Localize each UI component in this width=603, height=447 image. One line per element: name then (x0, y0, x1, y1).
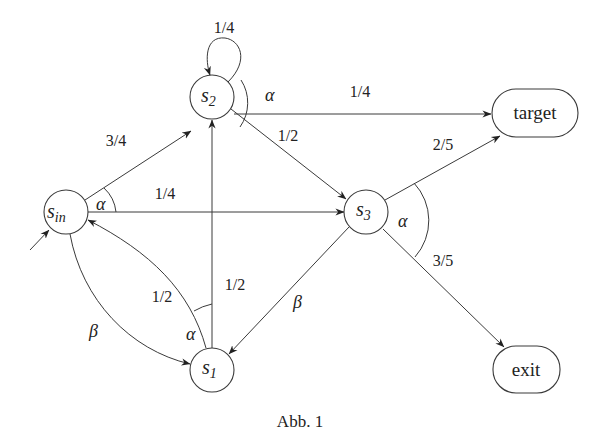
alpha-arc-s1 (194, 304, 212, 311)
start-arrow (30, 230, 49, 250)
terminal-target: target (492, 89, 578, 137)
alpha-label-s1: α (186, 324, 196, 344)
alpha-label-s2: α (265, 85, 275, 105)
alpha-arc-s3 (414, 183, 429, 257)
alpha-label-s3: α (398, 211, 408, 231)
beta-label-s3-s1: β (292, 292, 302, 312)
state-s3: s3 (344, 190, 388, 234)
label-s3-target: 2/5 (433, 136, 453, 153)
label-s2-target: 1/4 (350, 83, 370, 100)
alpha-arc-s2 (240, 80, 248, 127)
label-s3-exit: 3/5 (433, 252, 453, 269)
state-s1: s1 (190, 348, 234, 392)
edge-s2-s3 (231, 109, 346, 199)
label-sin-s2: 3/4 (106, 132, 126, 149)
label-s1-sin: 1/2 (152, 288, 172, 305)
label-s1-s2: 1/2 (225, 276, 245, 293)
alpha-label-sin: α (96, 194, 106, 214)
target-label: target (514, 102, 558, 123)
alpha-arc-sin (104, 188, 116, 212)
beta-label-sin-s1: β (88, 321, 98, 341)
state-s2: s2 (190, 75, 234, 119)
edge-s3-exit (383, 229, 504, 347)
exit-label: exit (512, 359, 541, 380)
label-s2-self: 1/4 (214, 19, 234, 36)
label-sin-s3: 1/4 (155, 185, 175, 202)
state-s-in: sin (44, 190, 88, 234)
figure-caption: Abb. 1 (277, 412, 323, 431)
terminal-exit: exit (493, 346, 560, 393)
edge-s3-s1 (229, 227, 349, 354)
mdp-diagram: sin s2 s3 s1 target exit 1/4 1/4 1/2 3/4… (0, 0, 603, 447)
label-s2-s3: 1/2 (278, 127, 298, 144)
